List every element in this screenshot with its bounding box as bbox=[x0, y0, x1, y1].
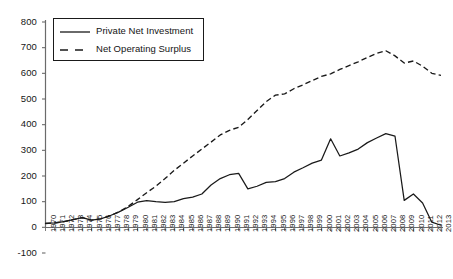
x-axis-tick-label: 2000 bbox=[325, 215, 334, 232]
y-axis-tick-label: 400 bbox=[3, 118, 37, 129]
y-axis-tick-label: 500 bbox=[3, 93, 37, 104]
x-axis-tick-label: 1986 bbox=[196, 215, 205, 232]
x-axis-tick-label: 2001 bbox=[334, 215, 343, 232]
y-axis-tick-label: 300 bbox=[3, 144, 37, 155]
x-axis-tick-label: 2012 bbox=[435, 215, 444, 232]
chart-legend: Private Net Investment Net Operating Sur… bbox=[53, 18, 204, 61]
x-axis-tick-label: 1991 bbox=[242, 215, 251, 232]
x-axis-tick-label: 1979 bbox=[131, 215, 140, 232]
x-axis-tick-label: 2010 bbox=[417, 215, 426, 232]
x-axis-tick-label: 2004 bbox=[361, 215, 370, 232]
x-axis-tick-label: 2003 bbox=[352, 215, 361, 232]
x-axis-tick-label: 1999 bbox=[315, 215, 324, 232]
x-axis-tick-label: 1998 bbox=[306, 215, 315, 232]
y-axis-tick-label: 200 bbox=[3, 170, 37, 181]
x-axis-tick-label: 1971 bbox=[58, 215, 67, 232]
x-axis-tick-label: 2002 bbox=[343, 215, 352, 232]
x-axis-tick-label: 1995 bbox=[279, 215, 288, 232]
y-axis-tick-label: -100 bbox=[3, 247, 37, 258]
legend-item-net-operating-surplus: Net Operating Surplus bbox=[54, 41, 203, 59]
series-private-net-investment bbox=[46, 134, 442, 226]
x-axis-tick-label: 1984 bbox=[177, 215, 186, 232]
x-axis-tick-label: 2005 bbox=[371, 215, 380, 232]
y-axis-tick-label: 800 bbox=[3, 16, 37, 27]
x-axis-tick-label: 1994 bbox=[269, 215, 278, 232]
x-axis-tick-label: 1985 bbox=[187, 215, 196, 232]
x-axis-tick-label: 1987 bbox=[205, 215, 214, 232]
y-axis-tick-label: 700 bbox=[3, 41, 37, 52]
series-net-operating-surplus bbox=[46, 51, 442, 224]
legend-label-private-net-investment: Private Net Investment bbox=[96, 25, 193, 36]
x-axis-tick-label: 1988 bbox=[214, 215, 223, 232]
x-axis-tick-label: 2009 bbox=[407, 215, 416, 232]
x-axis-tick-label: 2011 bbox=[426, 215, 435, 232]
y-axis-tick-label: 0 bbox=[3, 221, 37, 232]
x-axis-tick-label: 1978 bbox=[122, 215, 131, 232]
x-axis-tick-label: 1980 bbox=[141, 215, 150, 232]
x-axis-tick-label: 1992 bbox=[251, 215, 260, 232]
x-axis-tick-label: 1981 bbox=[150, 215, 159, 232]
y-axis-tick-label: 100 bbox=[3, 195, 37, 206]
x-axis-tick-label: 1970 bbox=[49, 215, 58, 232]
x-axis-tick-label: 1997 bbox=[297, 215, 306, 232]
x-axis-tick-label: 2013 bbox=[444, 215, 453, 232]
x-axis-tick-label: 1990 bbox=[233, 215, 242, 232]
x-axis-tick-label: 1975 bbox=[95, 215, 104, 232]
x-axis-tick-label: 2006 bbox=[380, 215, 389, 232]
legend-line-solid-icon bbox=[60, 31, 90, 33]
x-axis-tick-label: 1977 bbox=[113, 215, 122, 232]
x-axis-tick-label: 1983 bbox=[168, 215, 177, 232]
x-axis-tick-label: 1973 bbox=[76, 215, 85, 232]
x-axis-tick-label: 1993 bbox=[260, 215, 269, 232]
x-axis-tick-label: 2008 bbox=[398, 215, 407, 232]
x-axis-tick-label: 1974 bbox=[85, 215, 94, 232]
legend-item-private-net-investment: Private Net Investment bbox=[54, 23, 203, 41]
legend-label-net-operating-surplus: Net Operating Surplus bbox=[96, 43, 191, 54]
x-axis-tick-label: 1996 bbox=[288, 215, 297, 232]
y-axis-tick-label: 600 bbox=[3, 67, 37, 78]
legend-line-dashed-icon bbox=[60, 49, 90, 51]
x-axis-tick-label: 1976 bbox=[104, 215, 113, 232]
x-axis-tick-label: 1989 bbox=[223, 215, 232, 232]
x-axis-tick-label: 1982 bbox=[159, 215, 168, 232]
x-axis-tick-label: 2007 bbox=[389, 215, 398, 232]
x-axis-tick-label: 1972 bbox=[67, 215, 76, 232]
